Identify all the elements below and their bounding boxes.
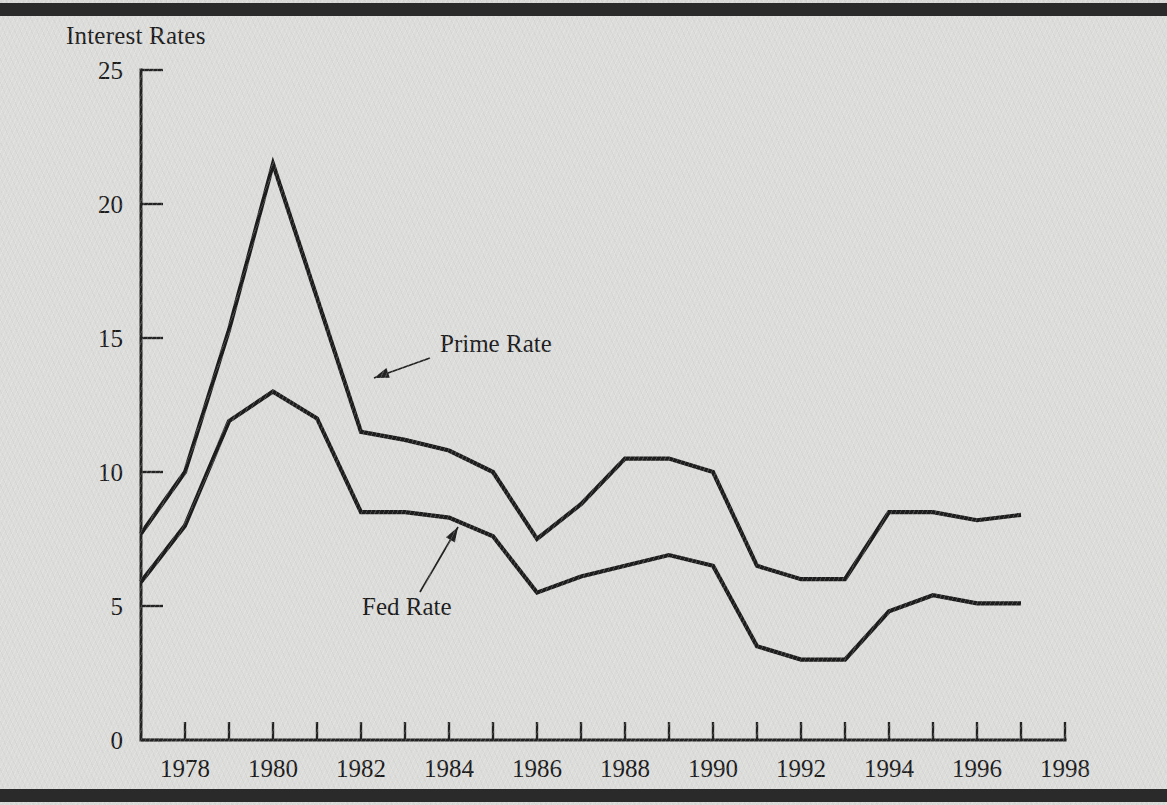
y-tick-label: 20 — [98, 191, 123, 218]
x-tick-label: 1996 — [952, 755, 1002, 782]
x-tick-label: 1982 — [336, 755, 386, 782]
x-axis: 1978198019821984198619881990199219941996… — [160, 722, 1090, 782]
x-tick-label: 1992 — [776, 755, 826, 782]
x-tick-label: 1990 — [688, 755, 738, 782]
y-tick-label: 25 — [98, 57, 123, 84]
series-lines — [141, 164, 1021, 660]
x-tick-label: 1994 — [864, 755, 915, 782]
x-tick-label: 1980 — [248, 755, 298, 782]
series-line-fed-rate — [141, 392, 1021, 660]
chart-title: Interest Rates — [66, 22, 206, 50]
axis-frame — [141, 70, 1065, 740]
y-axis: 0510152025 — [98, 57, 163, 754]
y-tick-label: 0 — [111, 727, 124, 754]
x-tick-label: 1988 — [600, 755, 650, 782]
x-tick-label: 1986 — [512, 755, 562, 782]
annotation-label-fed-rate: Fed Rate — [362, 593, 452, 620]
figure-page: Interest Rates 0510152025 19781980198219… — [0, 0, 1167, 805]
x-tick-label: 1984 — [424, 755, 475, 782]
x-tick-label: 1978 — [160, 755, 210, 782]
annotation-label-prime-rate: Prime Rate — [440, 330, 552, 357]
line-chart: 0510152025 19781980198219841986198819901… — [0, 0, 1167, 805]
annotation-arrow-head — [374, 368, 390, 378]
y-tick-label: 5 — [111, 593, 124, 620]
y-tick-label: 15 — [98, 325, 123, 352]
top-edge-bar — [0, 3, 1167, 16]
series-line-prime-rate — [141, 164, 1021, 579]
x-tick-label: 1998 — [1040, 755, 1090, 782]
y-tick-label: 10 — [98, 459, 123, 486]
annotation-arrow-head — [446, 527, 458, 543]
bottom-edge-bar — [0, 789, 1167, 802]
